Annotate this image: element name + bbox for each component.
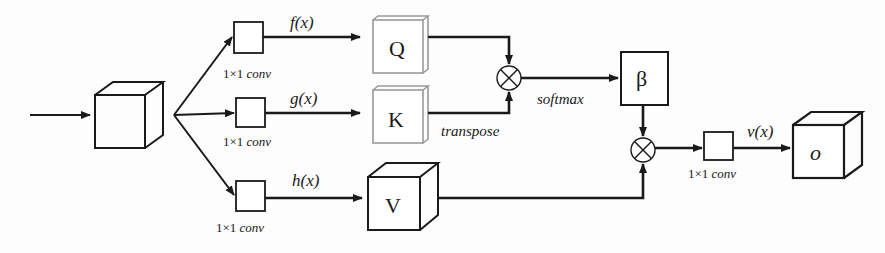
q-to-multiply: [428, 37, 509, 64]
input-feature-cube: [95, 82, 163, 148]
branch-to-g: [174, 113, 234, 115]
conv-f-box: [234, 22, 263, 53]
k-to-multiply: [428, 92, 509, 113]
conv-v-box: [704, 132, 733, 160]
conv-g-box: [236, 98, 265, 127]
softmax-label: softmax: [537, 91, 584, 107]
diagram-canvas: 1×1 conv 1×1 conv 1×1 conv f(x) g(x) h(x…: [0, 0, 885, 253]
value-cube: [368, 163, 438, 230]
conv-h-label: 1×1 conv: [216, 220, 264, 235]
multiply-top-icon: [497, 66, 521, 90]
attention-diagram: 1×1 conv 1×1 conv 1×1 conv f(x) g(x) h(x…: [0, 0, 885, 253]
transpose-label: transpose: [441, 123, 500, 139]
conv-f-label: 1×1 conv: [223, 66, 271, 81]
g-label: g(x): [290, 89, 318, 108]
output-feature-cube: [793, 112, 862, 178]
conv-g-label: 1×1 conv: [223, 134, 271, 149]
conv-h-box: [236, 181, 265, 211]
v-to-multiply: [438, 164, 643, 198]
attention-map-label: β: [636, 66, 647, 91]
h-label: h(x): [292, 171, 320, 190]
value-label: V: [385, 193, 401, 218]
branch-to-h: [174, 115, 234, 195]
f-label: f(x): [290, 13, 314, 32]
query-label: Q: [389, 36, 405, 61]
v-label: v(x): [747, 122, 774, 141]
key-label: K: [388, 107, 404, 132]
output-label: o: [810, 140, 821, 165]
multiply-bottom-icon: [631, 138, 655, 162]
conv-v-label: 1×1 conv: [688, 166, 736, 181]
